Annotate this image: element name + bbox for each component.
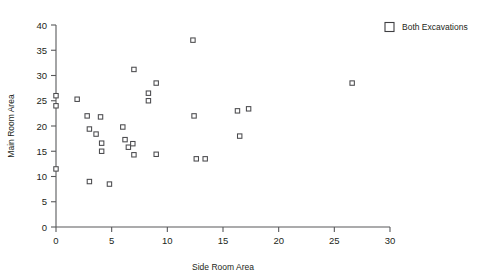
data-point-marker — [350, 81, 354, 85]
data-point-marker — [99, 141, 103, 145]
x-tick-label: 10 — [162, 235, 173, 246]
data-point-marker — [107, 182, 111, 186]
y-axis-title: Main Room Area — [6, 94, 16, 158]
data-point-marker — [75, 97, 79, 101]
data-point-marker — [54, 94, 58, 98]
y-tick-label: 35 — [36, 45, 47, 56]
data-point-marker — [191, 38, 195, 42]
data-point-marker — [87, 127, 91, 131]
y-tick-label: 20 — [36, 121, 47, 132]
data-point-marker — [99, 149, 103, 153]
data-point-marker — [132, 153, 136, 157]
data-point-marker — [98, 115, 102, 119]
y-tick-label: 25 — [36, 95, 47, 106]
x-tick-label: 15 — [218, 235, 229, 246]
x-tick-label: 25 — [329, 235, 340, 246]
data-point-marker — [131, 141, 135, 145]
x-tick-label: 20 — [273, 235, 284, 246]
data-point-marker — [203, 157, 207, 161]
y-tick-label: 10 — [36, 171, 47, 182]
data-point-marker — [123, 137, 127, 141]
y-tick-label: 0 — [42, 222, 47, 233]
data-point-marker — [154, 152, 158, 156]
data-point-marker — [192, 114, 196, 118]
data-point-marker — [194, 157, 198, 161]
scatter-plot-figure: 0510152025300510152025303540Side Room Ar… — [0, 0, 485, 280]
data-point-marker — [85, 114, 89, 118]
data-point-marker — [132, 67, 136, 71]
y-tick-label: 5 — [42, 196, 47, 207]
data-point-marker — [154, 81, 158, 85]
x-tick-label: 0 — [53, 235, 58, 246]
y-tick-label: 30 — [36, 70, 47, 81]
x-axis-title: Side Room Area — [192, 262, 254, 272]
legend-marker-icon — [385, 23, 394, 32]
data-point-marker — [54, 167, 58, 171]
data-point-marker — [246, 107, 250, 111]
data-point-marker — [54, 104, 58, 108]
data-point-marker — [126, 145, 130, 149]
data-point-marker — [146, 91, 150, 95]
legend-entry-label: Both Excavations — [402, 22, 468, 32]
data-point-marker — [121, 125, 125, 129]
x-tick-label: 5 — [109, 235, 114, 246]
x-tick-label: 30 — [385, 235, 396, 246]
data-point-marker — [87, 179, 91, 183]
data-point-marker — [94, 132, 98, 136]
data-point-marker — [238, 134, 242, 138]
data-point-marker — [235, 109, 239, 113]
y-tick-label: 15 — [36, 146, 47, 157]
y-tick-label: 40 — [36, 20, 47, 31]
chart-canvas: 0510152025300510152025303540Side Room Ar… — [0, 0, 485, 280]
data-point-marker — [146, 99, 150, 103]
